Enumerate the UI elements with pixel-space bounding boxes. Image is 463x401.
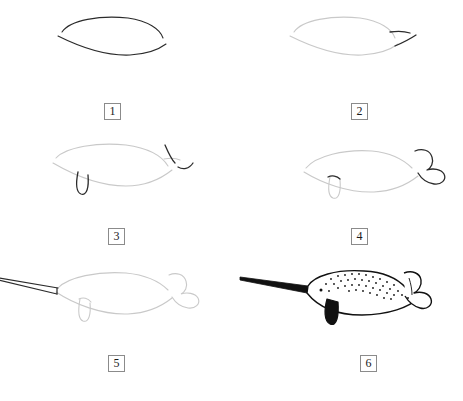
step-3-drawing: [0, 130, 231, 230]
body-top-curve-previous: [294, 17, 395, 38]
tail-fluke-previous: [169, 274, 199, 308]
step-number-6: 6: [361, 356, 376, 371]
body-bottom-curve-previous: [56, 292, 172, 314]
tutorial-step-2: 2: [232, 0, 463, 133]
step-number-badge-6: 6: [360, 355, 377, 372]
body-outline: [307, 271, 418, 315]
body-bottom-curve-previous: [53, 163, 172, 186]
tutorial-step-6: 6: [232, 255, 463, 388]
eye-dot: [320, 289, 323, 292]
body-bottom-curve-previous: [304, 172, 418, 192]
body-bottom-curve-previous: [290, 36, 398, 55]
tail-fin-upper-stroke: [165, 145, 175, 163]
step-1-drawing: [0, 0, 231, 100]
body-top-curve-previous: [58, 273, 168, 290]
body-top-curve: [62, 17, 163, 38]
flipper-previous: [79, 299, 90, 321]
tutorial-step-4: 4: [232, 130, 463, 263]
step-number-3: 3: [109, 229, 124, 244]
flipper-filled: [325, 299, 338, 324]
tusk-filled: [240, 277, 308, 293]
step-number-1: 1: [105, 104, 120, 119]
flipper-top-previous: [79, 298, 91, 302]
step-number-badge-3: 3: [108, 228, 125, 245]
tail-joint-lower-stroke: [395, 35, 416, 46]
step-number-2: 2: [352, 104, 367, 119]
tutorial-step-5: 5: [0, 255, 231, 388]
tail-joint-upper-stroke: [390, 31, 410, 33]
step-number-5: 5: [109, 356, 124, 371]
step-2-drawing: [232, 0, 463, 100]
tail-fluke-outline: [415, 150, 445, 184]
step-number-badge-5: 5: [108, 355, 125, 372]
step-number-badge-2: 2: [351, 103, 368, 120]
drawing-tutorial: 1 2: [0, 0, 463, 401]
step-5-drawing: [0, 255, 231, 355]
tutorial-step-3: 3: [0, 130, 231, 263]
body-bottom-curve: [58, 36, 166, 55]
step-number-badge-4: 4: [351, 228, 368, 245]
step-number-4: 4: [352, 229, 367, 244]
tutorial-step-1: 1: [0, 0, 231, 133]
body-top-curve-previous: [56, 144, 168, 166]
step-4-drawing: [232, 130, 463, 230]
body-top-curve-previous: [306, 151, 412, 168]
step-6-drawing: [232, 255, 463, 355]
step-number-badge-1: 1: [104, 103, 121, 120]
tail-fin-lower-stroke: [178, 163, 193, 169]
